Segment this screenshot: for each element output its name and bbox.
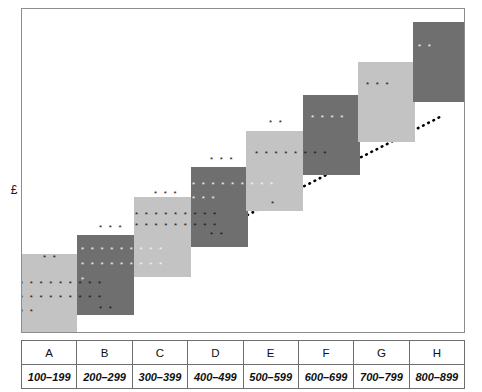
cell-letter-c: C [132, 341, 187, 365]
marks-c-row2: * * * * * * * * * [135, 222, 218, 229]
plot-area: * * * * * * * * * * * * * * * * * * * * … [21, 8, 465, 333]
category-table: A B C D E F G H 100–199 200–299 300–399 … [21, 340, 465, 389]
y-axis-label: £ [6, 182, 22, 198]
cell-range-d: 400–499 [188, 365, 243, 389]
cell-letter-f: F [298, 341, 353, 365]
cell-letter-g: G [354, 341, 409, 365]
marks-a-above: * * [43, 254, 58, 261]
cell-range-e: 500–599 [243, 365, 298, 389]
marks-c-row1: * * * * * * * * * [135, 211, 218, 218]
cell-range-c: 300–399 [132, 365, 187, 389]
marks-a-row3: * * [21, 308, 35, 315]
marks-b-below: * * [99, 305, 114, 312]
cell-range-a: 100–199 [22, 365, 77, 389]
chart-figure: £ * * * * * * * * * * * * * * * * * * * … [0, 0, 482, 392]
marks-c-above: * * * [154, 190, 179, 197]
cell-range-g: 700–799 [354, 365, 409, 389]
cell-letter-h: H [409, 341, 464, 365]
marks-e-below: * [271, 200, 276, 207]
marks-d-row1: * * * * * * * * * [192, 181, 275, 188]
marks-h-row1: * * [418, 43, 433, 50]
marks-b-above: * * * [99, 224, 124, 231]
marks-b-row1: * * * * * * * * * [81, 246, 164, 253]
marks-g-row1: * * * [366, 81, 391, 88]
marks-d-above: * * * [210, 156, 235, 163]
table-row-ranges: 100–199 200–299 300–399 400–499 500–599 … [22, 365, 465, 389]
marks-e-above: * * [269, 119, 284, 126]
cell-letter-e: E [243, 341, 298, 365]
marks-d-below: * * [210, 231, 225, 238]
marks-a-row2: * * * * * * * * * [21, 294, 103, 301]
cell-range-f: 600–699 [298, 365, 353, 389]
step-block-f [303, 95, 360, 175]
marks-d-row2: * * * [192, 195, 217, 202]
marks-f-row1: * * * * [311, 114, 346, 121]
step-block-g [358, 62, 415, 142]
cell-range-b: 200–299 [77, 365, 132, 389]
marks-b-row2: * * * * * * * * * [81, 261, 164, 268]
marks-a-row1: * * * * * * * * * [21, 280, 103, 287]
cell-range-h: 800–899 [409, 365, 464, 389]
cell-letter-d: D [188, 341, 243, 365]
cell-letter-b: B [77, 341, 132, 365]
step-block-h [413, 22, 465, 102]
marks-e-row1: * * * * * * * * [255, 150, 328, 157]
table-row-letters: A B C D E F G H [22, 341, 465, 365]
marks-b-row3: * [81, 276, 86, 283]
cell-letter-a: A [22, 341, 77, 365]
